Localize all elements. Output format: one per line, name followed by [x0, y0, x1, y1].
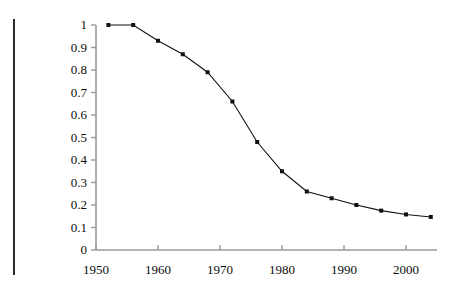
- data-point-marker: [206, 70, 210, 74]
- data-point-marker: [354, 203, 358, 207]
- data-point-marker: [404, 212, 408, 216]
- x-tick-label: 2000: [384, 263, 428, 276]
- y-tick-label: 0.3: [61, 176, 87, 189]
- data-point-marker: [156, 39, 160, 43]
- y-tick-label: 0.8: [61, 63, 87, 76]
- x-tick-label: 1980: [260, 263, 304, 276]
- y-tick-label: 0.2: [61, 198, 87, 211]
- chart-figure: 00.10.20.30.40.50.60.70.80.91 1950196019…: [0, 0, 457, 292]
- series-1-markers: [106, 23, 432, 219]
- y-tick-label: 0.5: [61, 131, 87, 144]
- data-point-marker: [181, 52, 185, 56]
- x-tick-label: 1990: [322, 263, 366, 276]
- data-point-marker: [255, 140, 259, 144]
- y-tick-label: 1: [61, 18, 87, 31]
- y-tick-label: 0.9: [61, 41, 87, 54]
- x-tick-label: 1960: [136, 263, 180, 276]
- x-tick-label: 1950: [74, 263, 118, 276]
- axes-group: [96, 25, 437, 250]
- data-point-marker: [379, 209, 383, 213]
- data-point-marker: [280, 169, 284, 173]
- y-tick-label: 0.4: [61, 153, 87, 166]
- data-point-marker: [131, 23, 135, 27]
- y-tick-label: 0.1: [61, 221, 87, 234]
- data-point-marker: [230, 100, 234, 104]
- data-point-marker: [305, 190, 309, 194]
- y-tick-label: 0: [61, 243, 87, 256]
- y-tick-label: 0.7: [61, 86, 87, 99]
- data-point-marker: [429, 215, 433, 219]
- y-tick-label: 0.6: [61, 108, 87, 121]
- series-1-line: [108, 25, 430, 217]
- x-tick-label: 1970: [198, 263, 242, 276]
- data-point-marker: [106, 23, 110, 27]
- data-point-marker: [330, 196, 334, 200]
